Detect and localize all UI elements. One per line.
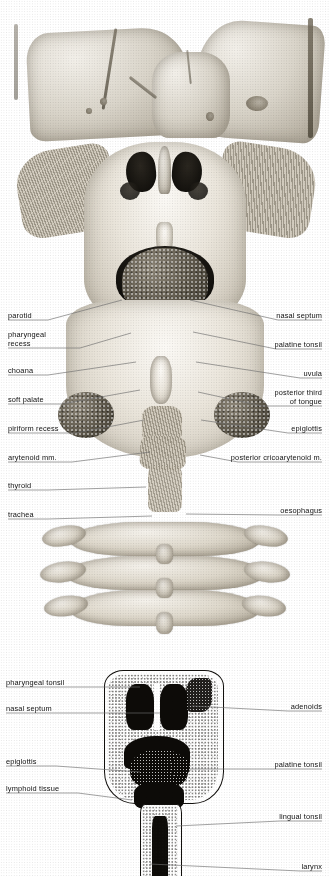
upper-label-left-3: choana [8,366,33,375]
lower-label-right-2: palatine tonsil [275,760,322,769]
upper-label-left-4: soft palate [8,395,44,404]
upper-label-left-5: piriform recess [8,424,59,433]
upper-label-right-6: posterior cricoarytenoid m. [231,453,322,462]
lower-label-left-3: epiglottis [6,757,37,766]
upper-label-left-1: parotid [8,311,32,320]
upper-label-right-7: oesophagus [280,506,322,515]
upper-label-left-2: pharyngeal recess [8,330,46,348]
lower-label-right-3: lingual tonsil [279,812,322,821]
lower-label-left-2: nasal septum [6,704,52,713]
upper-label-right-1: nasal septum [276,311,322,320]
cervical-vertebrae [0,500,329,640]
anatomy-plate: parotidpharyngeal recesschoanasoft palat… [0,0,329,876]
upper-label-left-7: thyroid [8,481,31,490]
upper-label-right-4: posterior third of tongue [275,388,322,406]
figure-upper-skull-base [0,0,329,150]
lower-label-left-4: lymphoid tissue [6,784,59,793]
upper-label-right-3: uvula [304,369,322,378]
upper-label-left-8: trachea [8,510,34,519]
lower-label-right-1: adenoids [291,702,322,711]
upper-label-right-2: palatine tonsil [275,340,322,349]
lower-label-left-1: pharyngeal tonsil [6,678,64,687]
upper-label-left-6: arytenoid mm. [8,453,57,462]
lower-label-right-4: larynx [301,862,322,871]
upper-label-right-5: epiglottis [291,424,322,433]
